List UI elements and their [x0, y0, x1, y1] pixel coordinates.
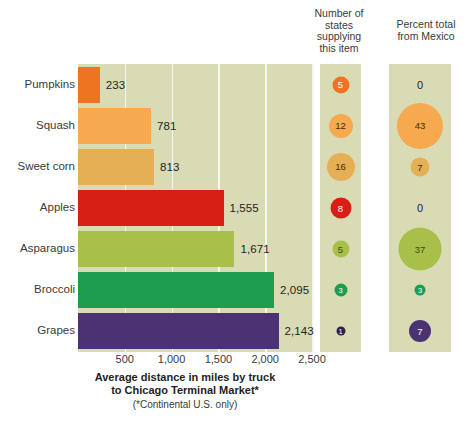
bar-value-label: 1,671: [240, 243, 269, 255]
category-label: Sweet corn: [17, 160, 75, 172]
caption-footnote: (*Continental U.S. only): [40, 398, 330, 411]
bar: [78, 149, 154, 185]
bubble-value: 16: [327, 153, 355, 181]
category-labels: PumpkinsSquashSweet cornApplesAsparagusB…: [0, 64, 75, 352]
bubble-value: 7: [411, 157, 430, 176]
bubble-value: 3: [334, 284, 347, 297]
bubble-value: 7: [409, 320, 431, 342]
bubble-row: 0: [389, 190, 451, 226]
bar-value-label: 233: [106, 79, 126, 91]
bubble-row: 43: [389, 108, 451, 144]
chart-caption: Average distance in miles by truck to Ch…: [40, 371, 330, 411]
category-label: Apples: [40, 201, 75, 213]
caption-line-2: to Chicago Terminal Market*: [40, 384, 330, 397]
bubble-row: 1: [320, 313, 361, 349]
bubble-row: 7: [389, 149, 451, 185]
bar: [78, 190, 224, 226]
x-axis-ticks: 5001,0001,5002,0002,500: [78, 353, 312, 369]
bar: [78, 67, 100, 103]
bar-value-label: 781: [157, 120, 177, 132]
states-bubble-panel: 512168531: [320, 64, 361, 352]
category-label: Asparagus: [20, 242, 75, 254]
column-header-states: Number of states supplying this item: [311, 8, 367, 54]
x-axis-tick-label: 2,000: [251, 353, 279, 365]
bubble-value: 8: [330, 198, 351, 219]
bar-row: 781: [78, 108, 312, 144]
column-header-mexico: Percent total from Mexico: [383, 19, 469, 42]
bubble-row: 5: [320, 67, 361, 103]
bar-value-label: 1,555: [230, 202, 259, 214]
bubble-row: 3: [389, 272, 451, 308]
bar: [78, 272, 274, 308]
bubble-row: 7: [389, 313, 451, 349]
bubble-row: 3: [320, 272, 361, 308]
gridline: [312, 64, 314, 352]
bar: [78, 313, 279, 349]
bubble-row: 8: [320, 190, 361, 226]
bubble-row: 16: [320, 149, 361, 185]
x-axis-tick-label: 1,000: [158, 353, 186, 365]
category-label: Grapes: [37, 324, 75, 336]
x-axis-tick-label: 2,500: [298, 353, 326, 365]
bar-row: 2,095: [78, 272, 312, 308]
category-label: Broccoli: [34, 283, 75, 295]
bar-row: 1,555: [78, 190, 312, 226]
bubble-value: 0: [417, 203, 423, 214]
x-axis-tick-label: 1,500: [205, 353, 233, 365]
bubble-value: 3: [415, 285, 426, 296]
infographic-root: Number of states supplying this item Per…: [0, 0, 471, 421]
bubble-value: 1: [336, 327, 345, 336]
bar-row: 1,671: [78, 231, 312, 267]
bar-value-label: 2,143: [285, 325, 314, 337]
caption-line-1: Average distance in miles by truck: [40, 371, 330, 384]
mexico-bubble-panel: 043703737: [389, 64, 451, 352]
category-label: Squash: [36, 119, 75, 131]
bubble-value: 12: [329, 114, 353, 138]
category-label: Pumpkins: [25, 78, 76, 90]
bubble-value: 43: [397, 103, 443, 149]
bar-value-label: 813: [160, 161, 180, 173]
bubble-value: 37: [399, 228, 442, 271]
bubble-value: 0: [417, 79, 423, 90]
bubble-row: 0: [389, 67, 451, 103]
bar-row: 813: [78, 149, 312, 185]
bubble-row: 37: [389, 231, 451, 267]
bar: [78, 231, 234, 267]
bar-value-label: 2,095: [280, 284, 309, 296]
bubble-row: 12: [320, 108, 361, 144]
bubble-row: 5: [320, 231, 361, 267]
bar: [78, 108, 151, 144]
bubble-value: 5: [332, 76, 349, 93]
bar-row: 2,143: [78, 313, 312, 349]
bubble-value: 5: [332, 241, 349, 258]
x-axis-tick-label: 500: [116, 353, 134, 365]
bar-chart-plot-area: 2337818131,5551,6712,0952,143: [78, 64, 312, 352]
bar-row: 233: [78, 67, 312, 103]
